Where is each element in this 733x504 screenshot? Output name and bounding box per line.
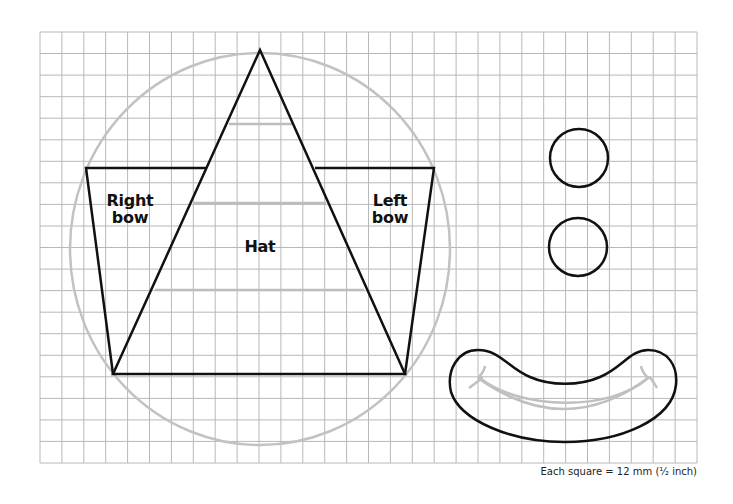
pattern-diagram: [0, 0, 733, 504]
left-bow-label-line2: bow: [360, 209, 420, 226]
left-bow-label-line1: Left: [360, 192, 420, 209]
mouth-guide-tick-left: [478, 366, 485, 378]
scale-caption: Each square = 12 mm (¹⁄₂ inch): [541, 466, 697, 477]
right-bow-label-line1: Right: [100, 192, 160, 209]
right-bow-label: Right bow: [100, 192, 160, 226]
left-bow-label: Left bow: [360, 192, 420, 226]
mouth-guide-tick-right: [641, 366, 648, 378]
eye-circle-top: [550, 129, 608, 187]
hat-label: Hat: [235, 238, 285, 255]
right-bow-label-line2: bow: [100, 209, 160, 226]
mouth-outline: [450, 350, 676, 442]
